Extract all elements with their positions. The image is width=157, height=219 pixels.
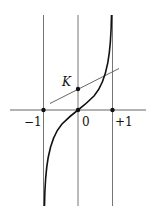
label-zero: 0 [82,116,90,128]
label-plus-one: +1 [115,116,133,128]
secant-line [50,69,119,104]
graph-svg [0,0,157,219]
label-k: K [62,76,71,88]
point-k [76,87,80,91]
point-origin [76,108,80,112]
point-minus-one [41,108,45,112]
label-minus-one: −1 [24,116,42,128]
point-plus-one [110,108,114,112]
diagram-canvas: K −1 0 +1 [0,0,157,219]
